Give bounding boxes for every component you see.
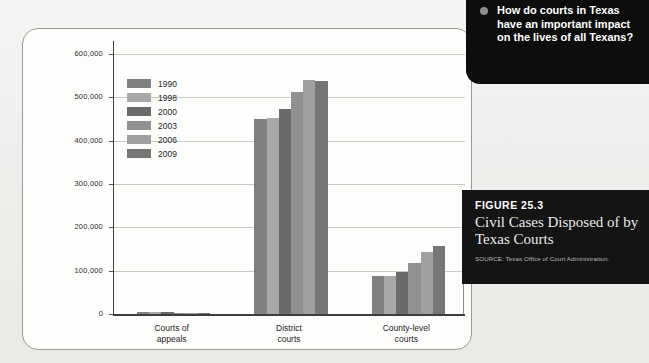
legend-swatch-icon [127, 79, 151, 88]
legend-swatch-icon [127, 135, 151, 144]
legend-item-label: 2000 [158, 107, 177, 117]
gridline [113, 54, 465, 55]
bar-2009-courts-of-appeals [198, 313, 210, 315]
figure-source: SOURCE: Texas Office of Court Administra… [475, 255, 649, 262]
bar-2003-county-level-courts [408, 263, 420, 314]
bar-2000-courts-of-appeals [161, 312, 173, 314]
bar-2006-courts-of-appeals [186, 313, 198, 315]
x-axis-category-label: County-levelcourts [348, 323, 465, 345]
x-axis-category-label: Districtcourts [230, 323, 347, 345]
bar-2009-county-level-courts [433, 246, 445, 314]
y-axis-tick-label: 500,000 [41, 92, 103, 101]
bar-2000-county-level-courts [396, 272, 408, 314]
bar-1998-district-courts [267, 118, 279, 314]
x-axis-category-label-line: appeals [113, 334, 230, 345]
y-axis-tick-label: 300,000 [41, 179, 103, 188]
legend-item-2009: 2009 [127, 147, 177, 160]
legend-item-2000: 2000 [127, 105, 177, 118]
y-axis-line [113, 41, 114, 314]
legend-swatch-icon [127, 107, 151, 116]
bar-chart-plot: 0100,000200,000300,000400,000500,000600,… [23, 29, 473, 351]
chart-panel: 0100,000200,000300,000400,000500,000600,… [22, 28, 472, 350]
legend-item-label: 1998 [158, 93, 177, 103]
x-axis-category-label-line: County-level [348, 323, 465, 334]
legend-item-2006: 2006 [127, 133, 177, 146]
legend-item-label: 1990 [158, 79, 177, 89]
figure-title: Civil Cases Disposed of by Texas Courts [475, 214, 649, 248]
bar-1998-county-level-courts [384, 276, 396, 314]
legend-item-1990: 1990 [127, 77, 177, 90]
x-axis-category-label: Courts ofappeals [113, 323, 230, 345]
question-callout: How do courts in Texas have an important… [466, 0, 649, 84]
question-text: How do courts in Texas have an important… [497, 4, 639, 84]
legend-item-2003: 2003 [127, 119, 177, 132]
figure-number: FIGURE 25.3 [475, 199, 649, 211]
legend-item-label: 2006 [158, 135, 177, 145]
legend-item-label: 2003 [158, 121, 177, 131]
bar-1990-district-courts [254, 119, 266, 314]
y-axis-tick-label: 100,000 [41, 266, 103, 275]
y-axis-tick-label: 400,000 [41, 136, 103, 145]
bar-2003-district-courts [291, 92, 303, 314]
y-axis-tick-label: 200,000 [41, 222, 103, 231]
y-axis-tick-label: 600,000 [41, 49, 103, 58]
chart-legend: 199019982000200320062009 [127, 77, 177, 161]
caption-connector-line [463, 284, 464, 314]
bullet-dot-icon [480, 7, 488, 15]
bar-1998-courts-of-appeals [149, 312, 161, 314]
bar-2000-district-courts [279, 109, 291, 314]
legend-swatch-icon [127, 149, 151, 158]
legend-swatch-icon [127, 121, 151, 130]
y-axis-tick-label: 0 [41, 309, 103, 318]
bar-1990-county-level-courts [372, 276, 384, 314]
legend-swatch-icon [127, 93, 151, 102]
bar-1990-courts-of-appeals [137, 312, 149, 314]
bar-2009-district-courts [315, 81, 327, 314]
figure-caption-box: FIGURE 25.3 Civil Cases Disposed of by T… [462, 190, 649, 284]
legend-item-1998: 1998 [127, 91, 177, 104]
x-axis-category-label-line: courts [230, 334, 347, 345]
legend-item-label: 2009 [158, 149, 177, 159]
bar-2006-district-courts [303, 80, 315, 314]
x-axis-category-label-line: District [230, 323, 347, 334]
bar-2003-courts-of-appeals [174, 313, 186, 315]
x-axis-category-label-line: Courts of [113, 323, 230, 334]
x-axis-category-label-line: courts [348, 334, 465, 345]
bar-2006-county-level-courts [421, 252, 433, 314]
x-axis-line [113, 314, 465, 316]
